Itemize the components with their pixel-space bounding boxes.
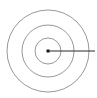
concentric-circles-diagram xyxy=(0,0,97,98)
center-point xyxy=(47,50,50,53)
figure-canvas xyxy=(0,0,97,98)
background-rect xyxy=(0,0,97,98)
